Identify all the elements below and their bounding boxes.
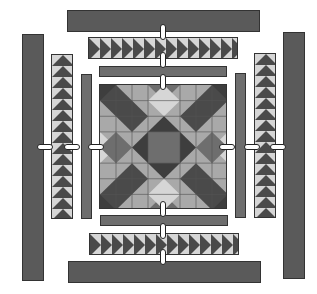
outer-border-right [283,32,305,279]
arrow-icon-top-2 [160,52,166,68]
arrow-icon-bottom-2 [160,223,166,239]
arrow-icon-right-3 [270,144,286,150]
center-star-block [99,84,227,209]
outer-border-left [22,34,44,281]
arrow-icon-bottom-1 [160,201,166,217]
arrow-icon-top-3 [160,74,166,90]
arrow-icon-top-1 [160,24,166,40]
arrow-icon-right-2 [244,144,260,150]
arrow-icon-left-2 [64,144,80,150]
flying-geese-border-right [254,53,276,218]
arrow-icon-right-1 [219,144,235,150]
flying-geese-border-left [51,54,73,219]
arrow-icon-left-1 [37,144,53,150]
arrow-icon-left-3 [88,144,104,150]
arrow-icon-bottom-3 [160,249,166,265]
